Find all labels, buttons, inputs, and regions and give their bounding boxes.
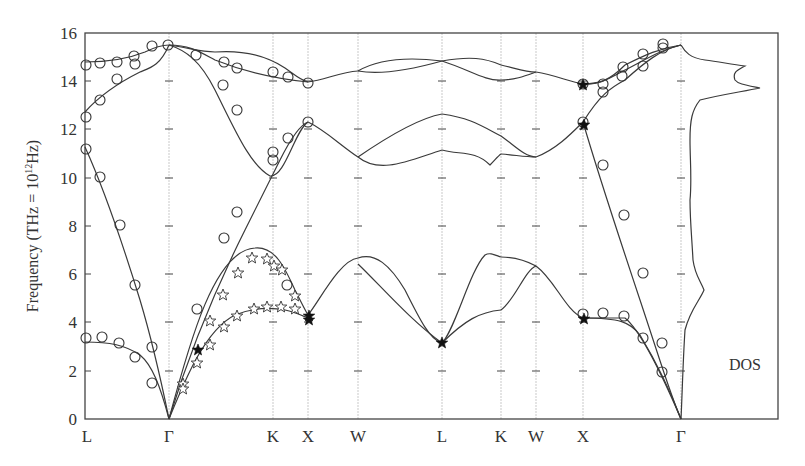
y-axis-title: Frequency (THz = 1012Hz) [23,140,42,312]
svg-text:X: X [577,427,589,446]
dispersion-curves [85,45,760,419]
x-tick-labels: L Γ K X W L K W X Γ [82,427,686,446]
svg-text:L: L [437,427,447,446]
svg-text:12: 12 [60,120,77,139]
y-axis-title-main: Frequency (THz = [24,190,42,312]
experimental-open-stars [177,252,301,394]
svg-text:8: 8 [69,217,78,236]
y-axis-title-base: 10 [24,174,41,190]
tick-marks [85,81,685,371]
svg-text:K: K [495,427,508,446]
svg-text:W: W [350,427,367,446]
svg-text:K: K [267,427,280,446]
svg-text:W: W [528,427,545,446]
y-axis-title-exponent: 12 [23,164,34,174]
high-symmetry-gridlines [169,33,681,419]
svg-text:6: 6 [69,265,78,284]
svg-text:4: 4 [69,313,78,332]
svg-text:2: 2 [69,362,78,381]
svg-text:Γ: Γ [164,427,174,446]
svg-text:X: X [302,427,314,446]
svg-text:10: 10 [60,169,77,188]
phonon-dispersion-chart: 0 2 4 6 8 10 12 14 16 L Γ K X W L K W X … [0,0,805,466]
svg-text:14: 14 [60,72,78,91]
y-tick-labels: 0 2 4 6 8 10 12 14 16 [60,24,78,429]
y-axis-title-unit: Hz) [24,140,42,164]
svg-text:Γ: Γ [676,427,686,446]
svg-text:0: 0 [69,410,78,429]
svg-text:L: L [82,427,92,446]
svg-text:16: 16 [60,24,77,43]
dos-label: DOS [729,356,761,373]
